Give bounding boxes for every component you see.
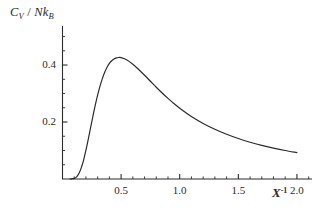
y-tick-label: 0.4: [26, 59, 56, 70]
y-axis-label-slash: /: [24, 5, 34, 19]
x-tick-label: 2.0: [286, 185, 308, 196]
y-axis-label-denominator: Nk: [34, 5, 48, 19]
x-tick-label: 1.0: [169, 185, 191, 196]
y-axis-label-denominator-subscript: B: [49, 11, 54, 21]
data-curve-cv-nkb: [70, 57, 297, 179]
y-axis-label-numerator: C: [10, 5, 19, 19]
x-axis-label-symbol: X: [272, 185, 281, 200]
y-axis-ticks: [63, 37, 68, 165]
chart-figure: CV / NkB X-1 0.51.01.52.00.20.4: [0, 0, 320, 211]
x-axis-ticks: [74, 174, 308, 179]
chart-plot-area: [0, 0, 320, 211]
y-tick-label: 0.2: [26, 116, 56, 127]
x-tick-label: 1.5: [227, 185, 249, 196]
x-tick-label: 0.5: [110, 185, 132, 196]
y-axis-label: CV / NkB: [10, 6, 54, 20]
